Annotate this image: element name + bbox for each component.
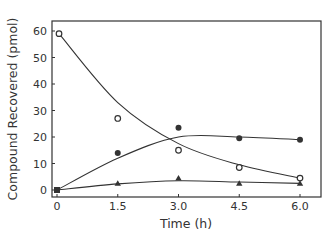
open-circle-marker <box>236 165 242 171</box>
open-circle-marker <box>56 31 62 37</box>
y-tick-label: 10 <box>33 158 47 171</box>
x-tick-label: 6.0 <box>291 200 309 213</box>
x-axis-title: Time (h) <box>159 216 212 231</box>
x-tick-label: 4.5 <box>231 200 249 213</box>
y-tick-label: 30 <box>33 105 47 118</box>
open-circle-marker <box>115 116 121 122</box>
filled-circle-marker <box>236 135 242 141</box>
open-circle-marker <box>297 175 303 181</box>
x-tick-label: 0 <box>54 200 61 213</box>
filled-triangle-marker <box>175 175 181 181</box>
y-tick-label: 50 <box>33 52 47 65</box>
filled-circle-marker <box>297 137 303 143</box>
chart: 0102030405060 01.53.04.56.0 Time (h) Com… <box>0 0 334 239</box>
x-tick-label: 3.0 <box>170 200 188 213</box>
y-tick-label: 40 <box>33 78 47 91</box>
y-tick-label: 60 <box>33 25 47 38</box>
filled-circle-marker <box>176 125 182 131</box>
x-tick-label: 1.5 <box>109 200 127 213</box>
y-axis-title: Compound Recovered (pmol) <box>5 18 20 201</box>
open-circle-marker <box>176 147 182 153</box>
y-tick-label: 0 <box>40 184 47 197</box>
fit-curve-3 <box>57 181 300 190</box>
filled-square-marker <box>54 187 60 193</box>
y-tick-label: 20 <box>33 131 47 144</box>
fit-curves <box>57 34 300 190</box>
filled-triangle-marker <box>236 180 242 186</box>
data-markers <box>54 31 303 193</box>
filled-triangle-marker <box>115 180 121 186</box>
fit-curve-1 <box>59 34 300 178</box>
filled-circle-marker <box>115 150 121 156</box>
